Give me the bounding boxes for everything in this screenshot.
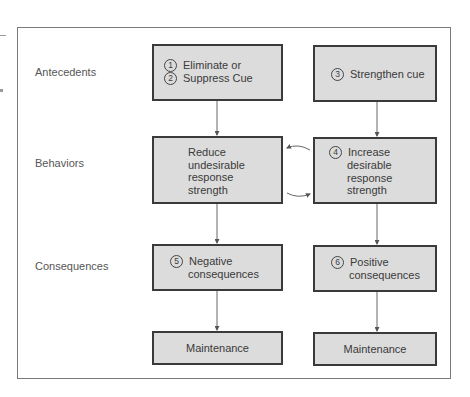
connector-arrows bbox=[0, 0, 470, 397]
